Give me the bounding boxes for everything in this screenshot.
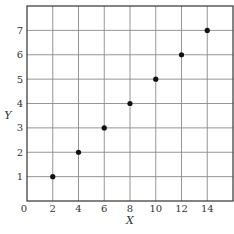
- y-tick-label: 2: [17, 147, 23, 158]
- data-point: [76, 150, 81, 155]
- x-axis-tick-labels: 02468101214: [21, 203, 214, 214]
- data-point: [102, 125, 107, 130]
- y-tick-label: 6: [17, 49, 23, 60]
- x-tick-label: 2: [50, 203, 56, 214]
- data-point: [205, 28, 210, 33]
- x-tick-label: 12: [175, 203, 188, 214]
- data-point: [50, 174, 55, 179]
- y-tick-label: 1: [17, 171, 23, 182]
- x-tick-label: 0: [21, 203, 27, 214]
- x-tick-label: 8: [127, 203, 133, 214]
- y-axis-tick-labels: 1234567: [17, 25, 23, 182]
- data-point: [127, 101, 132, 106]
- x-tick-label: 10: [149, 203, 162, 214]
- x-tick-label: 14: [201, 203, 214, 214]
- y-tick-label: 7: [17, 25, 23, 36]
- x-tick-label: 4: [75, 203, 81, 214]
- x-tick-label: 6: [101, 203, 107, 214]
- scatter-chart: 02468101214 1234567 X Y: [0, 0, 234, 234]
- x-axis-label: X: [125, 214, 135, 227]
- y-tick-label: 5: [17, 74, 23, 85]
- data-point: [153, 77, 158, 82]
- y-tick-label: 3: [17, 122, 23, 133]
- y-tick-label: 4: [17, 98, 23, 109]
- y-axis-label: Y: [4, 109, 13, 122]
- data-point: [179, 52, 184, 57]
